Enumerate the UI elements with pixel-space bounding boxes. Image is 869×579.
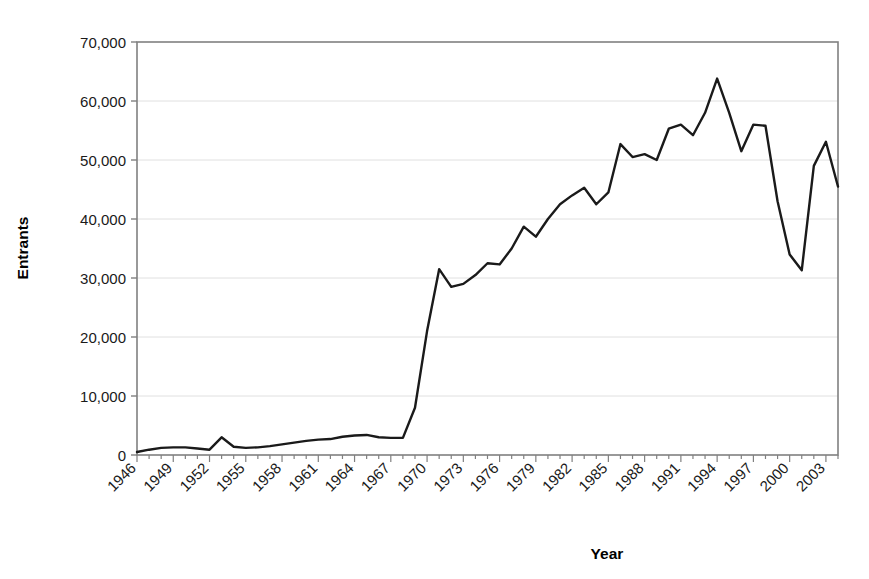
x-axis-title: Year [591,545,624,562]
y-axis-tick-label: 30,000 [80,270,126,287]
y-axis-tick-label: 50,000 [80,152,126,169]
y-axis-tick-label: 70,000 [80,34,126,51]
entrants-by-year-line-chart: 70,00060,00050,00040,00030,00020,00010,0… [0,0,869,579]
y-axis-tick-label: 60,000 [80,93,126,110]
chart-canvas: 70,00060,00050,00040,00030,00020,00010,0… [0,0,869,579]
y-axis-tick-label: 40,000 [80,211,126,228]
y-axis-tick-label: 20,000 [80,329,126,346]
y-axis-tick-label: 10,000 [80,388,126,405]
y-axis-title: Entrants [14,217,31,280]
